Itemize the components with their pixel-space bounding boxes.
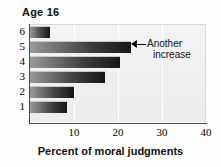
- bar-category-4: [30, 56, 120, 68]
- bar-category-5: [30, 41, 131, 53]
- x-tick-label-20: 20: [106, 126, 130, 138]
- chart-container: Age 16 6 5 4 3 2 1 10 20 30 40: [0, 0, 221, 167]
- bar-row-4: [30, 56, 120, 68]
- annotation-text: Another increase: [147, 38, 191, 60]
- y-tick-label-4: 4: [12, 55, 25, 67]
- bar-row-1: [30, 101, 67, 113]
- chart-title: Age 16: [22, 6, 59, 18]
- y-tick-label-2: 2: [12, 85, 25, 97]
- bar-row-5: [30, 41, 131, 53]
- bar-category-2: [30, 86, 74, 98]
- x-axis-line: [29, 123, 207, 124]
- x-tick-label-10: 10: [62, 126, 86, 138]
- bar-row-3: [30, 71, 105, 83]
- y-tick-label-5: 5: [12, 40, 25, 52]
- bar-category-3: [30, 71, 105, 83]
- y-tick-label-1: 1: [12, 100, 25, 112]
- left-arrow-icon: [131, 39, 147, 50]
- annotation-line-2: increase: [147, 49, 191, 60]
- x-tick-label-30: 30: [150, 126, 174, 138]
- y-tick-label-3: 3: [12, 70, 25, 82]
- bar-category-6: [30, 26, 50, 38]
- annotation-line-1: Another: [147, 38, 191, 49]
- bar-category-1: [30, 101, 67, 113]
- annotation-another-increase: Another increase: [131, 38, 191, 60]
- x-axis-title: Percent of moral judgments: [0, 145, 221, 157]
- y-tick-label-6: 6: [12, 25, 25, 37]
- bar-row-2: [30, 86, 74, 98]
- x-tick-label-40: 40: [194, 126, 218, 138]
- bar-row-6: [30, 26, 50, 38]
- gridline-40: [206, 24, 207, 123]
